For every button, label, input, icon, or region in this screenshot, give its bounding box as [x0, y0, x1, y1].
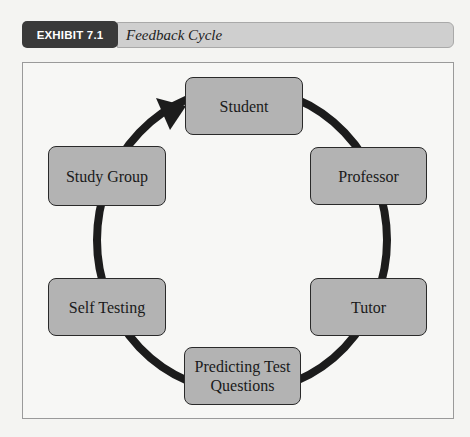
node-self-testing: Self Testing — [48, 278, 166, 336]
node-tutor: Tutor — [310, 278, 427, 336]
node-professor-label: Professor — [338, 167, 398, 186]
node-predicting-label: Predicting Test Questions — [185, 357, 300, 395]
node-student: Student — [185, 77, 303, 135]
node-study-group-label: Study Group — [66, 167, 148, 186]
node-tutor-label: Tutor — [351, 298, 386, 317]
node-predicting-test-questions: Predicting Test Questions — [184, 347, 301, 405]
exhibit-number-label: EXHIBIT 7.1 — [22, 21, 118, 48]
node-professor: Professor — [310, 147, 427, 205]
node-self-testing-label: Self Testing — [69, 298, 145, 317]
node-study-group: Study Group — [48, 146, 166, 206]
node-student-label: Student — [220, 97, 269, 116]
